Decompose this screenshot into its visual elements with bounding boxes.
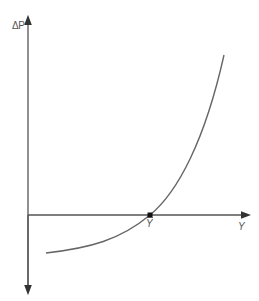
y-bar-text: Y <box>146 218 153 229</box>
y-axis-label: ΔP <box>12 21 24 31</box>
diagram-canvas <box>0 0 259 301</box>
delta-p-curve <box>46 55 224 253</box>
overbar <box>147 217 153 218</box>
x-axis-label: Y <box>238 222 245 232</box>
y-bar-marker-label: Y <box>146 219 153 229</box>
